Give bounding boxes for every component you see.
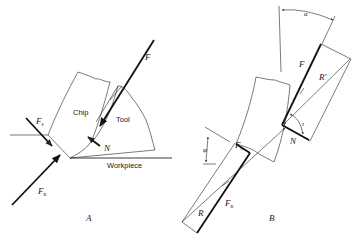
label-chip: Chip [73, 108, 88, 117]
panel-label-b: B [269, 213, 275, 223]
vertical-reference-line [279, 6, 281, 72]
force-vector-fn [197, 153, 250, 233]
label-angle-tau: τ [302, 121, 305, 127]
label-force-f-b: F [298, 59, 305, 69]
label-force-r: R [197, 208, 204, 218]
label-force-n-b: N [289, 136, 297, 146]
label-force-fn-b: Fn [224, 198, 234, 209]
label-force-n: N [103, 143, 111, 153]
label-force-f: F [144, 52, 151, 62]
panel-a: Chip Tool Workpiece F N Fs Fn A [10, 40, 172, 223]
label-angle-phi: φ [203, 146, 207, 154]
orthogonal-cutting-force-diagram: Chip Tool Workpiece F N Fs Fn A [0, 0, 355, 238]
phi-reference-line [205, 127, 230, 142]
label-force-fs-b: Fs [234, 140, 243, 151]
label-force-r-prime: R' [318, 72, 327, 82]
force-arrow-fn [12, 155, 60, 205]
resultant-r-prime [284, 59, 350, 124]
label-tool: Tool [116, 115, 130, 124]
panel-label-a: A [85, 213, 92, 223]
label-force-fs: Fs [35, 116, 44, 127]
force-rectangle-upper [282, 44, 351, 141]
force-arrow-n [88, 137, 100, 146]
label-force-fn: Fn [37, 186, 47, 197]
panel-b: F R' N R Fs Fn α φ τ B [182, 6, 351, 233]
label-angle-alpha: α [304, 10, 308, 18]
f-tick [300, 88, 304, 94]
rake-reference-line [322, 16, 335, 44]
label-workpiece: Workpiece [107, 161, 142, 170]
